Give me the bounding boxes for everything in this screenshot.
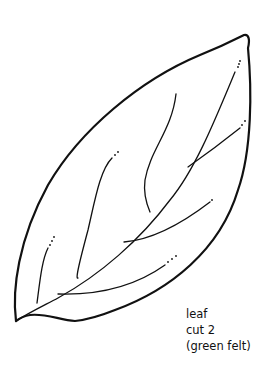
- leaf-outline: [15, 35, 250, 321]
- leaf-vein: [188, 128, 240, 167]
- leaf-vein: [58, 265, 165, 294]
- leaf-vein: [124, 202, 210, 242]
- leaf-vein: [144, 94, 176, 212]
- caption-piece-name: leaf: [186, 306, 251, 322]
- caption-material: (green felt): [186, 338, 251, 354]
- caption-cut-count: cut 2: [186, 322, 251, 338]
- leaf-midrib: [16, 72, 235, 321]
- leaf-vein: [37, 248, 48, 303]
- pattern-caption: leaf cut 2 (green felt): [186, 306, 251, 354]
- dotted-vein-endings: [49, 60, 246, 263]
- leaf-vein: [77, 158, 112, 278]
